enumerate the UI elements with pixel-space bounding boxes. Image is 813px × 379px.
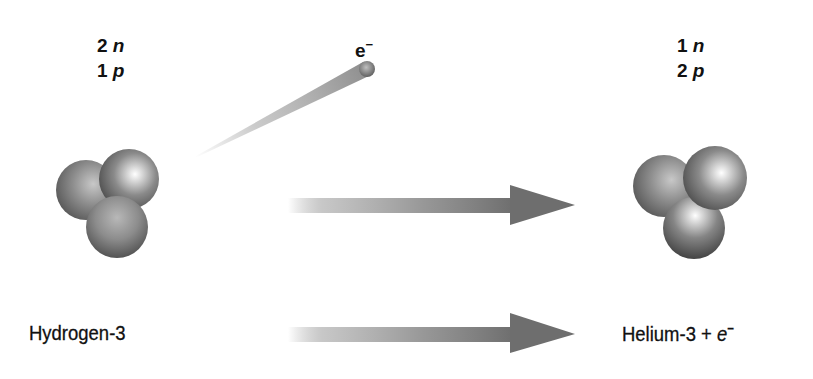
product-equation: Helium-3 + e− [622, 321, 734, 346]
decay-diagram: 2 n 1 p e− 1 n 2 p Hydrogen-3 Helium-3 +… [0, 0, 813, 379]
electron-symbol: e [355, 40, 366, 61]
hydrogen-3-nucleus [56, 149, 159, 258]
product-proton-count: 2 p [677, 59, 704, 83]
proton-count-value: 2 [677, 60, 688, 81]
product-electron-charge: − [727, 321, 734, 336]
nucleon-sphere-icon [86, 196, 148, 258]
electron-charge: − [366, 37, 374, 52]
product-neutron-count: 1 n [677, 34, 704, 58]
proton-count-value: 1 [97, 60, 108, 81]
neutron-symbol: n [693, 35, 705, 56]
emitted-electron-label: e− [355, 33, 373, 63]
reaction-arrow-upper-icon [288, 185, 575, 225]
plus-sign: + [701, 322, 712, 345]
proton-symbol: p [693, 60, 705, 81]
reactant-proton-count: 1 p [97, 59, 124, 83]
reaction-arrow-lower-icon [288, 313, 575, 353]
reactant-neutron-count: 2 n [97, 34, 124, 58]
electron-emission [195, 61, 375, 158]
nucleon-sphere-icon [683, 146, 747, 210]
electron-trail [195, 62, 371, 158]
helium-3-nucleus [633, 146, 747, 259]
neutron-count-value: 2 [97, 35, 108, 56]
product-electron-symbol: e [717, 322, 727, 345]
neutron-symbol: n [113, 35, 125, 56]
reactant-name: Hydrogen-3 [29, 321, 126, 345]
proton-symbol: p [113, 60, 125, 81]
electron-particle-icon [359, 61, 375, 77]
product-name: Helium-3 [622, 322, 696, 345]
neutron-count-value: 1 [677, 35, 688, 56]
